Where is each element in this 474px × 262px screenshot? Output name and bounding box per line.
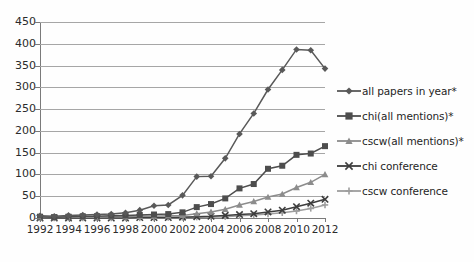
x-axis-tick-label: 2010 <box>281 223 313 235</box>
cross-marker-icon <box>322 202 328 208</box>
square-marker-icon <box>222 195 228 201</box>
y-axis-tick <box>35 22 40 23</box>
y-axis-tick <box>35 174 40 175</box>
y-axis-tick-label: 400 <box>4 38 36 49</box>
legend-item[interactable]: chi conference <box>336 153 472 178</box>
x-axis-tick-label: 1996 <box>81 223 113 235</box>
square-marker-icon <box>336 109 362 123</box>
y-axis-tick-label: 300 <box>4 81 36 92</box>
square-marker-icon <box>279 163 285 169</box>
plot-area <box>40 22 325 218</box>
square-marker-icon <box>308 151 314 157</box>
y-axis-tick <box>35 196 40 197</box>
y-axis-tick-label: 150 <box>4 147 36 158</box>
x-axis-tick <box>154 218 155 222</box>
x-axis-tick <box>183 218 184 222</box>
x-axis-labels: 1992199419961998200020022004200620082010… <box>0 223 474 243</box>
x-axis-tick <box>69 218 70 222</box>
legend-label: cscw conference <box>362 185 448 197</box>
x-axis-tick <box>126 218 127 222</box>
legend-label: all papers in year* <box>362 85 457 97</box>
x-axis-tick-label: 1994 <box>53 223 85 235</box>
square-marker-icon <box>180 209 186 215</box>
x-axis-tick-label: 1998 <box>110 223 142 235</box>
cross-marker-icon <box>345 187 352 194</box>
x-axis-tick <box>240 218 241 222</box>
y-axis-tick <box>35 109 40 110</box>
diamond-marker-icon <box>345 87 352 94</box>
square-marker-icon <box>151 212 157 218</box>
y-axis-tick-label: 0 <box>4 212 36 223</box>
square-marker-icon <box>194 204 200 210</box>
legend-item[interactable]: all papers in year* <box>336 78 472 103</box>
square-marker-icon <box>322 143 328 149</box>
y-axis-tick <box>35 44 40 45</box>
y-axis-tick-label: 100 <box>4 168 36 179</box>
y-axis-tick <box>35 87 40 88</box>
x-axis-tick <box>40 218 41 222</box>
legend-label: cscw(all mentions)* <box>362 135 464 147</box>
x-axis-tick-label: 2002 <box>167 223 199 235</box>
legend-item[interactable]: cscw conference <box>336 178 472 203</box>
x-axis-tick-label: 2000 <box>138 223 170 235</box>
y-axis-tick <box>35 131 40 132</box>
x-axis-tick-label: 1992 <box>24 223 56 235</box>
square-marker-icon <box>237 185 243 191</box>
x-axis-tick <box>268 218 269 222</box>
series-layer <box>40 22 325 218</box>
chart-container: 050100150200250300350400450 199219941996… <box>0 0 474 262</box>
square-marker-icon <box>208 201 214 207</box>
y-axis-tick-label: 250 <box>4 103 36 114</box>
square-marker-icon <box>251 181 257 187</box>
triangle-marker-icon <box>307 179 314 185</box>
square-marker-icon <box>294 152 300 158</box>
y-axis-tick <box>35 153 40 154</box>
x-axis-tick <box>97 218 98 222</box>
series-line <box>40 146 325 217</box>
y-axis-tick-label: 50 <box>4 190 36 201</box>
legend-label: chi conference <box>362 160 438 172</box>
x-axis-tick-label: 2006 <box>224 223 256 235</box>
triangle-marker-icon <box>336 134 362 148</box>
x-axis-tick <box>325 218 326 222</box>
y-axis-tick-label: 350 <box>4 60 36 71</box>
x-axis-tick-label: 2008 <box>252 223 284 235</box>
square-marker-icon <box>345 112 352 119</box>
chart-legend: all papers in year*chi(all mentions)*csc… <box>336 78 472 203</box>
y-axis-tick-label: 200 <box>4 125 36 136</box>
y-axis-tick-label: 450 <box>4 16 36 27</box>
x-axis-tick <box>297 218 298 222</box>
x-axis-tick-label: 2004 <box>195 223 227 235</box>
legend-item[interactable]: chi(all mentions)* <box>336 103 472 128</box>
square-marker-icon <box>265 166 271 172</box>
diamond-marker-icon <box>336 84 362 98</box>
x-axis-tick-label: 2012 <box>309 223 341 235</box>
cross-marker-icon <box>336 184 362 198</box>
y-axis-tick <box>35 66 40 67</box>
legend-item[interactable]: cscw(all mentions)* <box>336 128 472 153</box>
x-axis-tick <box>211 218 212 222</box>
legend-label: chi(all mentions)* <box>362 110 454 122</box>
x-marker-icon <box>336 159 362 173</box>
diamond-marker-icon <box>151 203 158 210</box>
square-marker-icon <box>165 211 171 217</box>
triangle-marker-icon <box>322 171 329 177</box>
